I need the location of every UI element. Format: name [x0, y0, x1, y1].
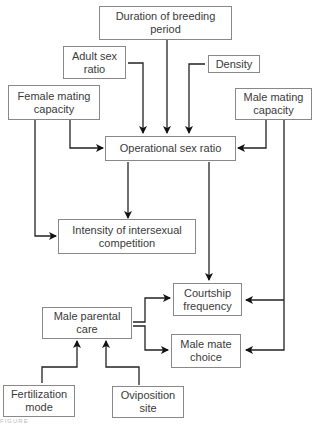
node-label: Courtship frequency — [174, 287, 241, 313]
node-label: Fertilization mode — [4, 388, 74, 414]
node-label: Duration of breeding period — [100, 10, 231, 36]
node-intensity-of-intersexual-competition: Intensity of intersexual competition — [58, 219, 196, 254]
node-label: Oviposition site — [113, 389, 183, 415]
node-female-mating-capacity: Female mating capacity — [8, 85, 100, 120]
node-oviposition-site: Oviposition site — [112, 386, 184, 418]
node-label: Male mate choice — [172, 338, 240, 364]
node-label: Male mating capacity — [236, 91, 311, 117]
connector-arrows — [0, 0, 318, 425]
figure-caption: FIGURE — [0, 418, 29, 424]
node-label: Adult sex ratio — [64, 50, 125, 76]
node-label: Male parental care — [43, 310, 131, 336]
node-density: Density — [208, 55, 260, 73]
node-label: Density — [216, 58, 253, 71]
node-adult-sex-ratio: Adult sex ratio — [63, 46, 126, 79]
node-male-mate-choice: Male mate choice — [171, 334, 241, 368]
node-label: Operational sex ratio — [120, 142, 222, 155]
node-duration-of-breeding-period: Duration of breeding period — [99, 6, 232, 40]
node-label: Female mating capacity — [9, 90, 99, 116]
node-male-parental-care: Male parental care — [42, 307, 132, 339]
node-operational-sex-ratio: Operational sex ratio — [105, 136, 236, 161]
node-fertilization-mode: Fertilization mode — [3, 385, 75, 417]
node-label: Intensity of intersexual competition — [59, 224, 195, 250]
node-courtship-frequency: Courtship frequency — [173, 283, 242, 316]
node-male-mating-capacity: Male mating capacity — [235, 88, 312, 120]
